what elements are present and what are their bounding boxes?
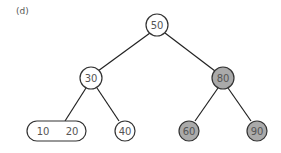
node-key: 40 [119, 126, 132, 137]
tree-node-80: 80 [212, 67, 234, 89]
edge-50-30 [98, 33, 150, 71]
tree-node-30: 30 [80, 67, 102, 89]
tree-diagram: 50 30 80 10 20 40 60 90 [0, 0, 281, 153]
edge-80-60 [195, 88, 218, 121]
node-key: 20 [66, 126, 79, 137]
tree-node-40: 40 [115, 121, 135, 141]
node-key: 80 [217, 73, 230, 84]
edge-30-40 [97, 88, 119, 121]
tree-node-60: 60 [179, 121, 199, 141]
edge-30-10-20 [65, 88, 86, 121]
node-key: 60 [183, 126, 196, 137]
node-key: 50 [151, 20, 164, 31]
tree-node-10-20: 10 20 [27, 121, 86, 141]
tree-node-50: 50 [146, 14, 168, 36]
node-key: 90 [251, 126, 264, 137]
node-key: 10 [37, 126, 50, 137]
edge-50-80 [165, 33, 215, 71]
node-key: 30 [85, 73, 98, 84]
edge-80-90 [228, 88, 251, 121]
tree-node-90: 90 [247, 121, 267, 141]
